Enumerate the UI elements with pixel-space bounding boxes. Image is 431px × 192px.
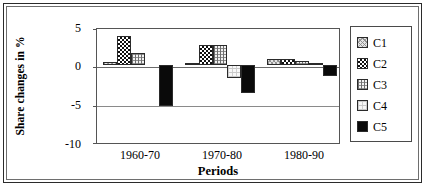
bar-1970-80-c1 [185, 63, 199, 65]
bar-1970-80-c4 [227, 65, 241, 78]
legend-item-c5: C5 [357, 116, 411, 137]
legend-swatch-c2 [357, 58, 368, 69]
legend-label-c4: C4 [373, 100, 387, 112]
chart-legend: C1 C2 C3 C4 C5 [350, 26, 412, 142]
legend-label-c5: C5 [373, 121, 387, 133]
y-tick-label-0: 0 [41, 60, 81, 72]
y-tick-label-neg5: -5 [41, 99, 81, 111]
bar-1970-80-c3 [213, 45, 227, 65]
legend-item-c3: C3 [357, 74, 411, 95]
bar-group-1960-70 [101, 29, 181, 143]
bar-1960-70-c3 [131, 53, 145, 65]
bar-1970-80-c2 [199, 45, 213, 65]
bar-1980-90-c2 [281, 59, 295, 65]
x-tick-label-1970-80: 1970-80 [177, 148, 267, 163]
legend-label-c3: C3 [373, 79, 387, 91]
y-tickmark-neg10 [93, 143, 97, 144]
bar-1970-80-c5 [241, 65, 255, 93]
bar-1960-70-c2 [117, 36, 131, 65]
legend-swatch-c3 [357, 79, 368, 90]
legend-swatch-c4 [357, 100, 368, 111]
legend-swatch-c5 [357, 121, 368, 132]
legend-item-c2: C2 [357, 53, 411, 74]
plot-area [96, 28, 340, 144]
x-tick-label-1960-70: 1960-70 [95, 148, 185, 163]
bar-1980-90-c4 [309, 63, 323, 65]
x-tick-label-1980-90: 1980-90 [259, 148, 349, 163]
legend-item-c1: C1 [357, 32, 411, 53]
y-axis-title: Share changes in % [14, 26, 26, 146]
bar-1980-90-c3 [295, 61, 309, 65]
bar-group-1980-90 [265, 29, 345, 143]
x-axis-title: Periods [96, 164, 340, 179]
bar-1980-90-c1 [267, 59, 281, 65]
legend-label-c1: C1 [373, 37, 387, 49]
legend-label-c2: C2 [373, 58, 387, 70]
chart-frame-outer: Share changes in % 5 0 -5 -10 [3, 3, 422, 183]
y-tickmark-5 [93, 29, 97, 30]
legend-swatch-c1 [357, 37, 368, 48]
bar-group-1970-80 [183, 29, 263, 143]
legend-item-c4: C4 [357, 95, 411, 116]
y-tick-label-5: 5 [41, 22, 81, 34]
bar-1960-70-c1 [103, 62, 117, 65]
y-tick-label-neg10: -10 [41, 138, 81, 150]
bar-1980-90-c5 [323, 65, 337, 76]
bar-1960-70-c5 [159, 65, 173, 106]
